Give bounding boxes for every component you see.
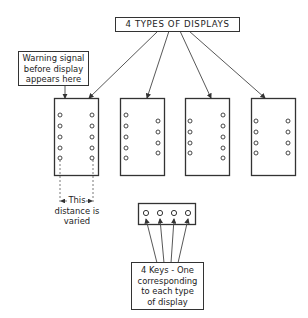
keys-label-line-3: to each type bbox=[132, 286, 203, 297]
diagram-title: 4 TYPES OF DISPLAYS bbox=[125, 19, 229, 29]
keys-label-line-4: of display bbox=[132, 297, 203, 308]
title-arrows bbox=[89, 31, 265, 98]
keys-label-line-1: 4 Keys - One bbox=[132, 265, 203, 276]
display-2 bbox=[121, 99, 165, 176]
distance-label: This distance is varied bbox=[48, 195, 106, 227]
display-1 bbox=[55, 99, 99, 176]
display-4 bbox=[252, 99, 296, 176]
title-box: 4 TYPES OF DISPLAYS bbox=[115, 17, 240, 32]
distance-label-line-1: This bbox=[48, 195, 106, 206]
keys-label-line-2: corresponding bbox=[132, 276, 203, 287]
warning-label-line-3: appears here bbox=[19, 74, 88, 85]
keys-label-box: 4 Keys - One corresponding to each type … bbox=[131, 262, 204, 310]
display-3 bbox=[186, 99, 230, 176]
warning-label-line-1: Warning signal bbox=[19, 53, 88, 64]
warning-label-box: Warning signal before display appears he… bbox=[18, 51, 89, 86]
distance-label-line-2: distance is bbox=[48, 206, 106, 217]
keys-arrows bbox=[146, 219, 188, 263]
warning-label-line-2: before display bbox=[19, 64, 88, 75]
distance-label-line-3: varied bbox=[48, 216, 106, 227]
